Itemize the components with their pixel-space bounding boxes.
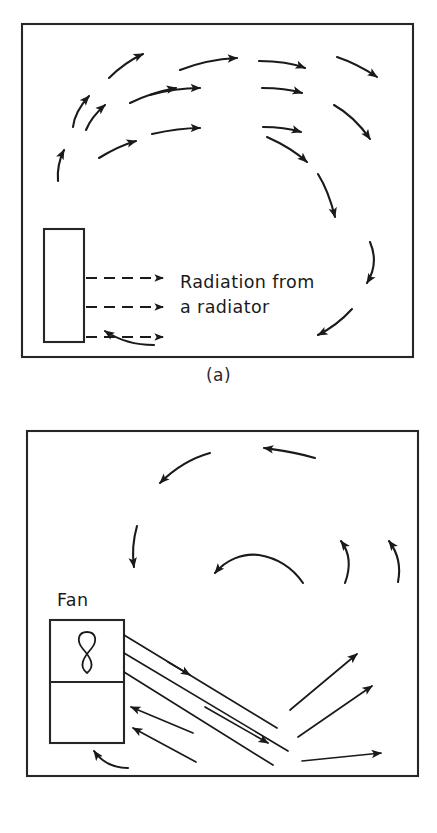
return-arrow-2 [133,728,196,762]
radiation-annotation-line2: a radiator [180,297,270,317]
flow-arrow-b6 [389,541,399,582]
flow-arrow-b3 [133,526,137,567]
panel-b: Fan [0,410,437,833]
flow-arrow-a10 [259,61,305,68]
flow-arrow-a1 [58,150,64,181]
radiation-arrows [86,278,163,337]
flow-arrow-b1 [264,448,315,458]
circulation-arrows-b [133,448,399,583]
flow-arrow-a17 [367,242,374,283]
figure-container: Radiation from a radiator [0,0,437,833]
jet-line-3 [124,672,273,765]
panel-a-diagram: Radiation from a radiator [0,0,437,410]
flow-arrow-a11 [262,88,302,93]
flow-arrow-a13 [337,57,377,77]
flow-arrow-a9 [152,128,200,134]
flow-arrow-a3 [86,105,105,130]
fan-jet-lines [124,635,288,765]
flow-arrow-a18 [318,309,352,335]
flow-arrow-b2 [160,453,210,483]
jet-arrowhead-2 [205,707,268,743]
flow-arrow-b4 [215,555,303,583]
spread-arrows-b [290,654,381,761]
flow-arrow-a4 [109,54,143,78]
flow-arrow-b5 [341,541,349,583]
radiator-box [44,229,84,342]
flow-arrow-b-return [94,751,128,768]
radiation-annotation-line1: Radiation from [180,272,315,292]
panel-b-diagram: Fan [0,410,437,833]
flow-arrow-a15 [267,137,307,162]
flow-arrow-a7 [180,58,237,70]
spread-arrow-1 [290,654,357,710]
jet-arrowhead-1 [168,662,190,675]
panel-a: Radiation from a radiator [0,0,437,410]
flow-arrow-a14 [334,105,370,139]
spread-arrow-3 [302,753,381,761]
flow-arrow-a16 [318,174,335,217]
fan-label: Fan [57,590,88,610]
return-arrow-1 [131,707,193,733]
fan-return-arrows [131,707,196,762]
flow-arrow-a12 [263,127,301,132]
flow-arrow-a2 [73,96,89,127]
flow-arrow-a5 [99,141,136,158]
panel-a-caption: (a) [0,365,437,385]
